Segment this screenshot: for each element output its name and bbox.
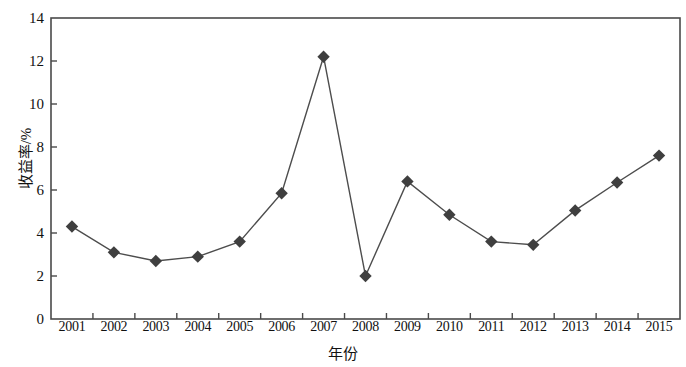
data-point-marker xyxy=(653,149,665,161)
x-tick-label: 2009 xyxy=(385,320,429,334)
x-tick-label: 2006 xyxy=(260,320,304,334)
x-tick-label: 2004 xyxy=(176,320,220,334)
x-tick-label: 2013 xyxy=(553,320,597,334)
x-tick-label: 2007 xyxy=(302,320,346,334)
plot-area xyxy=(0,0,686,367)
data-point-marker xyxy=(66,220,78,232)
chart-container: 收益率/% 14 12 10 8 6 4 2 0 200120022003200… xyxy=(0,0,686,367)
data-point-marker xyxy=(359,270,371,282)
x-tick-label: 2012 xyxy=(511,320,555,334)
data-point-marker xyxy=(192,250,204,262)
x-tick-label: 2008 xyxy=(344,320,388,334)
data-line xyxy=(72,57,659,276)
x-tick-label: 2002 xyxy=(92,320,136,334)
x-tick-label: 2005 xyxy=(218,320,262,334)
data-point-marker xyxy=(317,51,329,63)
x-tick-label: 2011 xyxy=(469,320,513,334)
y-axis-ticks xyxy=(51,61,57,276)
data-markers xyxy=(66,51,665,283)
data-point-marker xyxy=(150,255,162,267)
x-tick-label: 2014 xyxy=(595,320,639,334)
x-tick-label: 2010 xyxy=(427,320,471,334)
x-axis-title: 年份 xyxy=(0,342,686,363)
x-tick-label: 2015 xyxy=(637,320,681,334)
x-tick-label: 2001 xyxy=(50,320,94,334)
data-point-marker xyxy=(485,235,497,247)
x-tick-label: 2003 xyxy=(134,320,178,334)
data-point-marker xyxy=(611,176,623,188)
data-point-marker xyxy=(108,246,120,258)
